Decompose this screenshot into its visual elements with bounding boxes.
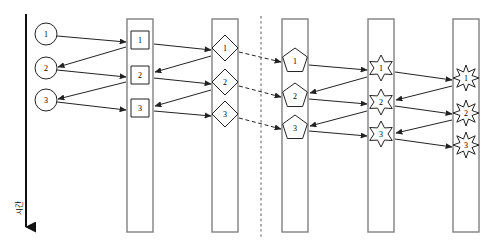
star8-node-1-label: 1 (464, 74, 468, 83)
diamond-node-2-label: 2 (223, 78, 227, 87)
diagram-svg: 123123123123123123 시간 (0, 0, 493, 251)
edge-star6-2-to-star8-2 (395, 106, 452, 114)
diagram-canvas: 123123123123123123 시간 시간 1 2 3 1 2 3 1 2… (0, 0, 493, 251)
pentagon-node-1-label: 1 (293, 57, 297, 66)
star6-node-2-label: 2 (379, 98, 383, 107)
edge-star6-3-to-star8-3 (395, 139, 452, 147)
edge-circle2-to-square2 (57, 70, 126, 77)
circle-node-1-label: 1 (44, 30, 48, 39)
edge-square1-to-diamond1 (154, 44, 211, 50)
circle-node-2-label: 2 (44, 64, 48, 73)
star8-node-2-label: 2 (464, 109, 468, 118)
pentagon-node-3-label: 3 (293, 124, 297, 133)
edge-diamond2-to-square3 (155, 90, 211, 106)
square-node-1-label: 1 (138, 36, 142, 45)
square-node-2-label: 2 (138, 71, 142, 80)
edge-star8-1-to-star6-2 (396, 86, 452, 100)
edge-pentagon1-to-star6-1 (309, 65, 367, 70)
diamond-node-1-label: 1 (223, 44, 227, 53)
edge-square2-to-circle3 (58, 82, 126, 99)
edge-pentagon2-to-star6-2 (309, 99, 367, 104)
square-node-3-label: 3 (138, 104, 142, 113)
edge-star6-2-to-pentagon3 (310, 111, 367, 126)
star6-node-3-label: 3 (379, 130, 383, 139)
nodes-group: 123123123123123123 (35, 23, 479, 158)
diamond-node-3-label: 3 (223, 110, 227, 119)
edge-square1-to-circle2 (58, 47, 126, 67)
edge-star6-1-to-star8-1 (395, 72, 452, 80)
edge-circle1-to-square1 (57, 36, 126, 42)
circle-node-3-label: 3 (44, 96, 48, 105)
edge-diamond1-to-pentagon1 (239, 52, 281, 62)
edge-circle3-to-square3 (57, 102, 126, 110)
edge-diamond3-to-pentagon3 (239, 118, 281, 129)
star8-node-3-label: 3 (464, 141, 468, 150)
edge-star8-2-to-star6-3 (396, 120, 452, 133)
edge-square3-to-diamond3 (154, 111, 211, 116)
time-axis-group: 시간 (14, 14, 26, 227)
column-squares (127, 19, 153, 232)
edge-diamond2-to-pentagon2 (239, 86, 281, 97)
edge-star6-1-to-pentagon2 (310, 77, 367, 93)
edge-diamond1-to-square2 (155, 56, 211, 72)
star6-node-1-label: 1 (379, 64, 383, 73)
time-axis-label-text: 시간 (14, 201, 24, 215)
pentagon-node-2-label: 2 (293, 92, 297, 101)
edge-square2-to-diamond2 (154, 78, 211, 84)
edge-pentagon3-to-star6-3 (309, 131, 367, 136)
